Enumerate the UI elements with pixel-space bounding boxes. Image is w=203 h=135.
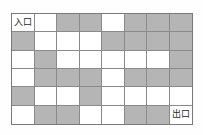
- maze-cell-r3-c6: [125, 51, 148, 69]
- maze-cell-r3-c7: [147, 51, 170, 69]
- maze-grid: 入口出口: [11, 13, 193, 125]
- maze-cell-r4-c6: [125, 69, 148, 87]
- maze-cell-r5-c7: [147, 87, 170, 105]
- maze-cell-r5-c1: [12, 87, 35, 105]
- maze-cell-r1-c4: [80, 14, 103, 32]
- maze-cell-r1-c3: [57, 14, 80, 32]
- maze-cell-r5-c6: [125, 87, 148, 105]
- maze-cell-r1-c5: [102, 14, 125, 32]
- maze-cell-r5-c4: [80, 87, 103, 105]
- maze-cell-r6-c5: [102, 106, 125, 124]
- maze-cell-r3-c5: [102, 51, 125, 69]
- entrance-label: 入口: [14, 18, 31, 27]
- maze-cell-r3-c2: [35, 51, 58, 69]
- maze-entrance-cell: 入口: [12, 14, 35, 32]
- maze-cell-r4-c1: [12, 69, 35, 87]
- maze-cell-r4-c3: [57, 69, 80, 87]
- maze-cell-r6-c1: [12, 106, 35, 124]
- maze-cell-r3-c8: [170, 51, 193, 69]
- maze-cell-r4-c7: [147, 69, 170, 87]
- maze-cell-r5-c5: [102, 87, 125, 105]
- maze-cell-r5-c8: [170, 87, 193, 105]
- maze-cell-r3-c4: [80, 51, 103, 69]
- maze-cell-r2-c4: [80, 32, 103, 50]
- maze-cell-r6-c2: [35, 106, 58, 124]
- maze-cell-r2-c7: [147, 32, 170, 50]
- maze-cell-r4-c5: [102, 69, 125, 87]
- maze-cell-r2-c5: [102, 32, 125, 50]
- maze-cell-r4-c8: [170, 69, 193, 87]
- maze-figure: 入口出口: [0, 0, 203, 135]
- maze-cell-r6-c6: [125, 106, 148, 124]
- maze-cell-r1-c7: [147, 14, 170, 32]
- maze-cell-r1-c2: [35, 14, 58, 32]
- maze-exit-cell: 出口: [170, 106, 193, 124]
- maze-cell-r5-c3: [57, 87, 80, 105]
- maze-cell-r6-c7: [147, 106, 170, 124]
- maze-cell-r2-c2: [35, 32, 58, 50]
- maze-cell-r2-c3: [57, 32, 80, 50]
- maze-cell-r2-c8: [170, 32, 193, 50]
- maze-cell-r3-c3: [57, 51, 80, 69]
- maze-cell-r6-c4: [80, 106, 103, 124]
- maze-cell-r2-c6: [125, 32, 148, 50]
- maze-cell-r4-c2: [35, 69, 58, 87]
- maze-cell-r5-c2: [35, 87, 58, 105]
- maze-cell-r1-c8: [170, 14, 193, 32]
- maze-cell-r2-c1: [12, 32, 35, 50]
- maze-cell-r4-c4: [80, 69, 103, 87]
- maze-cell-r1-c6: [125, 14, 148, 32]
- maze-cell-r6-c3: [57, 106, 80, 124]
- maze-cell-r3-c1: [12, 51, 35, 69]
- exit-label: 出口: [172, 110, 189, 119]
